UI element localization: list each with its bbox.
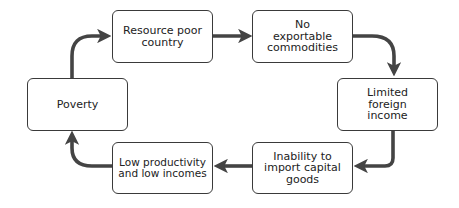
node-poverty: Poverty xyxy=(27,78,128,131)
node-label: Limited foreign income xyxy=(360,87,415,122)
node-label: Poverty xyxy=(57,99,99,111)
node-limited-foreign-income: Limited foreign income xyxy=(337,78,438,131)
node-label: Inability to import capital goods xyxy=(261,151,344,186)
node-label: No exportable commodities xyxy=(267,19,338,54)
arrow-lowprod-to-poverty xyxy=(72,137,112,166)
node-label: Resource poor country xyxy=(115,25,210,48)
node-no-exportable-commodities: No exportable commodities xyxy=(252,10,353,63)
arrow-poverty-to-resource xyxy=(72,36,105,78)
node-label: Low productivity and low incomes xyxy=(116,157,209,180)
node-resource-poor-country: Resource poor country xyxy=(112,10,213,63)
arrow-limited-to-inability xyxy=(360,130,393,166)
node-low-productivity-and-low-incomes: Low productivity and low incomes xyxy=(112,142,213,194)
node-inability-to-import-capital-goods: Inability to import capital goods xyxy=(252,142,353,194)
arrow-noexport-to-limited xyxy=(352,36,394,70)
